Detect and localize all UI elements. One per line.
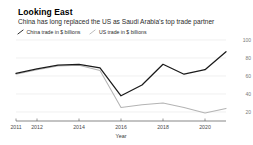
- gridlines: [16, 40, 226, 112]
- x-tick-label: 2014: [73, 124, 85, 130]
- y-tick-label: 80: [245, 56, 251, 61]
- y-tick-label: 100: [243, 38, 251, 43]
- x-tick-label: 2018: [157, 124, 169, 130]
- series-line-china: [16, 52, 226, 96]
- x-axis-label: Year: [116, 133, 127, 139]
- series-lines: [16, 52, 226, 113]
- x-tick-label: 2012: [31, 124, 43, 130]
- x-tick-label: 2016: [115, 124, 127, 130]
- x-tick-marks: [16, 119, 205, 122]
- y-tick-label: 60: [245, 74, 251, 79]
- y-tick-label: 40: [245, 92, 251, 97]
- x-tick-label: 2011: [10, 124, 21, 130]
- y-tick-label: 20: [245, 110, 251, 115]
- chart-figure: Looking East China has long replaced the…: [0, 0, 253, 145]
- x-tick-label: 2020: [199, 124, 211, 130]
